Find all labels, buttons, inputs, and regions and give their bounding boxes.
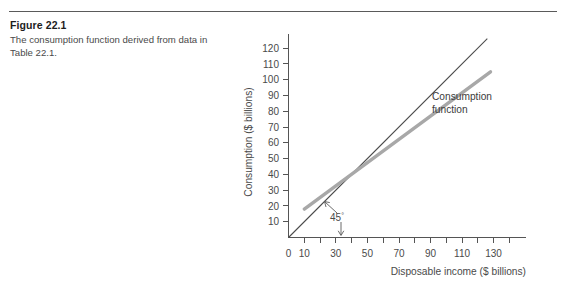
y-tick-label: 40	[268, 169, 280, 180]
x-tick-label: 70	[393, 248, 405, 259]
y-tick-label: 60	[268, 137, 280, 148]
y-tick-label: 80	[268, 106, 280, 117]
y-tick-label: 10	[268, 216, 280, 227]
y-axis-title: Consumption ($ billions)	[243, 87, 254, 196]
x-tick-label: 30	[330, 248, 342, 259]
y-tick-label: 70	[268, 122, 280, 133]
x-tick-label: 110	[454, 248, 470, 259]
angle-annotation: 45°	[325, 202, 345, 236]
y-tick-label: 120	[262, 43, 279, 54]
x-tick-label: 10	[299, 248, 311, 259]
x-tick-label: 130	[485, 248, 502, 259]
y-tick-label: 50	[268, 153, 280, 164]
x-tick-label: 50	[362, 248, 374, 259]
header-rule	[9, 11, 557, 12]
x-axis-ticks	[304, 238, 509, 244]
angle-annotation-label: 45°	[330, 212, 344, 223]
chart-svg: 10 20 30 40 50 60 70 80 90 100 110 120 C…	[236, 14, 560, 282]
series-45-degree-line	[289, 39, 488, 238]
x-axis-tick-labels: 0 10 30 50 70 90 110 130	[286, 248, 503, 259]
series-label-line2: function	[432, 104, 468, 115]
chart-figure: 10 20 30 40 50 60 70 80 90 100 110 120 C…	[236, 14, 560, 282]
y-tick-label: 20	[268, 201, 280, 212]
y-tick-label: 30	[268, 185, 280, 196]
figure-caption-text: The consumption function derived from da…	[10, 34, 222, 59]
y-tick-label: 110	[263, 59, 279, 70]
figure-page: Figure 22.1 The consumption function der…	[0, 0, 566, 288]
y-tick-label: 90	[268, 90, 280, 101]
x-axis-title: Disposable income ($ billions)	[391, 266, 526, 277]
y-axis-ticks	[283, 48, 289, 222]
series-label-line1: Consumption	[432, 91, 492, 102]
series-label-consumption-function: Consumption function	[432, 91, 492, 115]
x-tick-label: 90	[425, 248, 437, 259]
y-axis-tick-labels: 10 20 30 40 50 60 70 80 90 100 110 120	[262, 43, 279, 228]
x-tick-label: 0	[286, 248, 292, 259]
caption-block: Figure 22.1 The consumption function der…	[10, 18, 222, 59]
y-tick-label: 100	[262, 74, 279, 85]
figure-number: Figure 22.1	[10, 18, 222, 32]
